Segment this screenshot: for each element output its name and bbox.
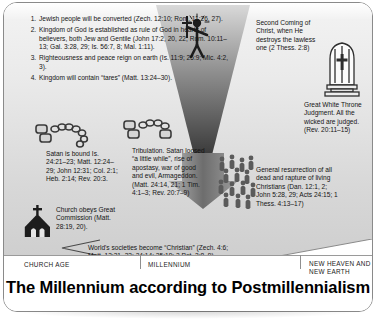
list-item: Righteousness and peace reign on earth (… (38, 54, 233, 72)
era-label-church-age: CHURCH AGE (24, 261, 70, 268)
great-white-throne-text: Great White Throne Judgment. All the wic… (304, 101, 373, 135)
church-building-icon (20, 203, 56, 237)
numbered-points-list: Jewish people will be converted (Zech. 1… (24, 15, 233, 85)
church-commission-text: Church obeys Great Commission (Matt. 28:… (56, 206, 130, 231)
broken-chain-icon (34, 121, 92, 148)
throne-with-cross-icon (322, 41, 362, 99)
satan-bound-text: Satan is bound Is. 24:21–23; Matt. 12:24… (46, 150, 118, 184)
list-item: Kingdom will contain “tares” (Matt. 13:2… (38, 74, 233, 83)
broken-chain-icon (122, 117, 180, 144)
tribulation-text: Tribulation. Satan loosed “a little whil… (132, 147, 206, 198)
era-tick-left (140, 255, 141, 269)
era-tick-right (300, 255, 301, 269)
second-coming-text: Second Coming of Christ, when He destroy… (256, 19, 318, 53)
diagram-card: Jewish people will be converted (Zech. 1… (3, 2, 373, 312)
era-label-millennium: MILLENNIUM (148, 261, 190, 268)
crowd-of-people-icon (214, 153, 260, 215)
era-label-new-heaven: NEW HEAVEN AND NEW EARTH (309, 260, 373, 277)
diagram-page: Jewish people will be converted (Zech. 1… (0, 0, 376, 333)
list-item: Kingdom of God is established as rule of… (38, 26, 233, 52)
list-item: Jewish people will be converted (Zech. 1… (38, 15, 233, 24)
general-resurrection-text: General resurrection of all dead and rap… (256, 166, 340, 208)
card-shadow (12, 311, 362, 319)
page-title: The Millennium according to Postmillenni… (4, 278, 372, 297)
